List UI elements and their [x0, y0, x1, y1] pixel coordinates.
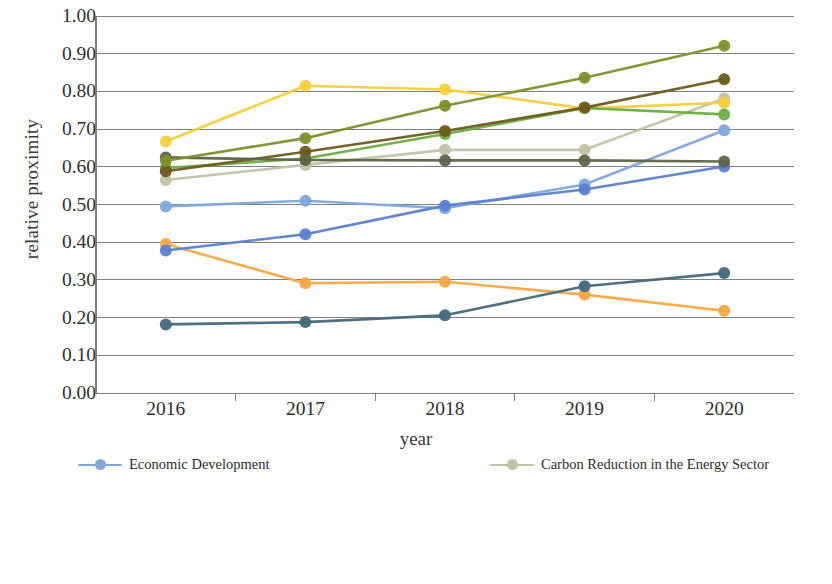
data-point — [718, 73, 730, 85]
data-point — [718, 305, 730, 317]
data-point — [299, 132, 311, 144]
data-point — [299, 277, 311, 289]
line-chart: relative proximity 0.000.100.200.300.400… — [0, 0, 832, 584]
data-point — [160, 165, 172, 177]
data-point — [718, 124, 730, 136]
data-point — [718, 267, 730, 279]
data-point — [439, 309, 451, 321]
data-point — [439, 154, 451, 166]
data-point — [160, 200, 172, 212]
legend-item[interactable]: Economic Development — [78, 452, 490, 478]
data-point — [299, 80, 311, 92]
data-point — [579, 144, 591, 156]
data-point — [160, 136, 172, 148]
data-point — [718, 97, 730, 109]
data-point — [299, 195, 311, 207]
data-point — [439, 144, 451, 156]
legend-marker-icon — [78, 458, 122, 472]
legend-item[interactable]: Carbon Reduction in the Energy Sector — [490, 452, 832, 478]
data-point — [439, 276, 451, 288]
series-1 — [160, 238, 730, 317]
x-axis-title: year — [0, 428, 832, 450]
data-point — [160, 318, 172, 330]
data-point — [160, 155, 172, 167]
data-point — [160, 244, 172, 256]
legend-marker-icon — [490, 458, 534, 472]
data-point — [439, 200, 451, 212]
data-point — [579, 72, 591, 84]
data-point — [579, 183, 591, 195]
data-point — [579, 280, 591, 292]
series-line — [166, 130, 724, 208]
data-point — [439, 84, 451, 96]
data-point — [579, 154, 591, 166]
legend-label: Carbon Reduction in the Energy Sector — [541, 456, 769, 473]
data-point — [718, 40, 730, 52]
x-tick-label: 2017 — [286, 398, 325, 420]
data-point — [718, 156, 730, 168]
x-tick-label: 2019 — [565, 398, 604, 420]
data-point — [299, 154, 311, 166]
data-point — [579, 102, 591, 114]
data-point — [439, 125, 451, 137]
data-point — [299, 228, 311, 240]
x-tick-label: 2018 — [426, 398, 465, 420]
x-tick-label: 2020 — [705, 398, 744, 420]
data-point — [718, 108, 730, 120]
chart-legend: Economic DevelopmentCarbon Reduction in … — [78, 452, 832, 580]
legend-label: Economic Development — [129, 456, 270, 473]
data-point — [439, 100, 451, 112]
x-tick-label: 2016 — [146, 398, 185, 420]
data-point — [299, 316, 311, 328]
